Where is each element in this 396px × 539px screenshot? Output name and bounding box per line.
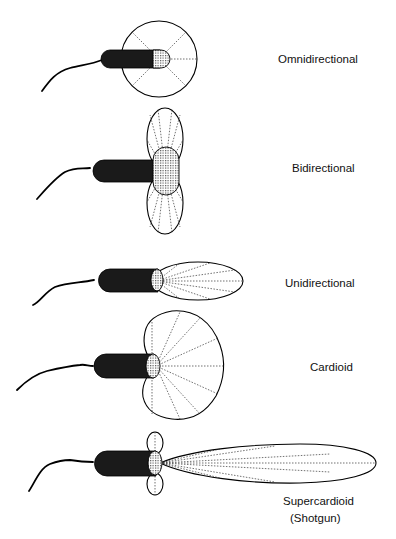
- pattern-label-unidirectional: Unidirectional: [285, 277, 355, 289]
- cable: [42, 60, 102, 91]
- cable: [37, 168, 90, 199]
- cardioid-figure: Cardioid: [17, 311, 353, 420]
- cable: [29, 460, 93, 491]
- mic-capsule: [151, 269, 163, 291]
- cable: [17, 365, 93, 390]
- unidirectional-figure: Unidirectional: [33, 262, 355, 305]
- supercardioid-front-lobe: [160, 444, 376, 483]
- mic-capsule: [153, 147, 179, 195]
- omnidirectional-figure: Omnidirectional: [42, 21, 358, 97]
- pattern-sublabel-shotgun: (Shotgun): [290, 512, 341, 524]
- supercardioid-figure: Supercardioid (Shotgun): [29, 432, 376, 524]
- pattern-label-cardioid: Cardioid: [310, 361, 353, 373]
- polar-pattern-diagram: Omnidirectional Bidirectional: [0, 0, 396, 539]
- mic-body: [101, 50, 160, 68]
- mic-capsule: [153, 50, 170, 68]
- mic-body: [94, 451, 156, 476]
- mic-body: [93, 160, 156, 182]
- cable: [33, 280, 94, 305]
- mic-body: [99, 269, 158, 292]
- mic-capsule: [148, 451, 162, 475]
- pattern-label-omnidirectional: Omnidirectional: [278, 53, 358, 65]
- pattern-label-bidirectional: Bidirectional: [292, 162, 355, 174]
- bidirectional-figure: Bidirectional: [37, 108, 355, 234]
- mic-capsule: [146, 354, 160, 378]
- mic-body: [94, 354, 154, 378]
- pattern-label-supercardioid: Supercardioid: [283, 495, 354, 507]
